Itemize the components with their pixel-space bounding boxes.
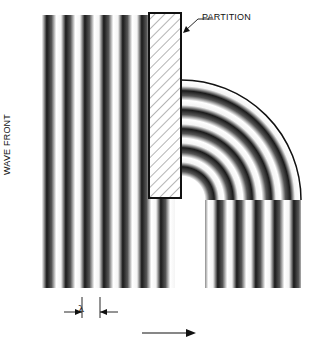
- wave-front-label: WAVE FRONT: [2, 114, 12, 175]
- wavelength-dimension: [64, 297, 118, 318]
- propagation-direction-arrow: [142, 329, 196, 337]
- partition-label: PARTITION: [202, 12, 251, 22]
- partition-box: [149, 13, 181, 198]
- wave-diffraction-diagram: [0, 0, 312, 345]
- diffracted-wave-fronts: [181, 72, 306, 288]
- wavelength-label: λ: [78, 303, 85, 314]
